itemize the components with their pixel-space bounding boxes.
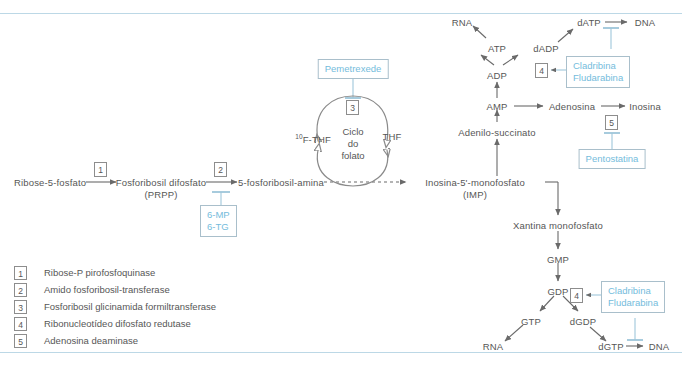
folate-cycle-label-line2: do <box>348 138 359 151</box>
legend-item: 5 Adenosina deaminase <box>14 332 216 349</box>
node-prpp-line1: Fosforibosil difosfato <box>116 177 206 188</box>
drug-label-6-mp: 6-MP <box>207 209 230 221</box>
node-amp: AMP <box>486 101 507 112</box>
legend-item: 4 Ribonucleotídeo difosfato redutase <box>14 315 216 332</box>
enzyme-marker-5[interactable]: 5 <box>605 115 618 130</box>
legend-number-2: 2 <box>14 283 27 297</box>
legend-label-3: Fosforibosil glicinamida formiltransfera… <box>44 301 216 312</box>
drug-label-cladribina-top: Cladribina <box>573 60 623 72</box>
f-thf-label: F-THF <box>303 134 331 145</box>
legend-number-4: 4 <box>14 317 27 331</box>
node-dadp: dADP <box>533 43 558 54</box>
node-adp: ADP <box>487 70 507 81</box>
node-adenilo-succinato: Adenilo-succinato <box>458 127 536 138</box>
legend-label-2: Amido fosforibosil-transferase <box>44 284 170 295</box>
legend-item: 3 Fosforibosil glicinamida formiltransfe… <box>14 298 216 315</box>
enzyme-marker-2[interactable]: 2 <box>214 162 227 177</box>
top-rule <box>0 13 682 14</box>
node-dgdp: dGDP <box>570 316 596 327</box>
drug-box-pemetrexede[interactable]: Pemetrexede <box>318 59 389 79</box>
node-rna-top: RNA <box>452 17 473 28</box>
node-rna-bottom: RNA <box>483 341 504 352</box>
enzyme-marker-4-bottom[interactable]: 4 <box>570 288 583 303</box>
f-thf-superscript: 10 <box>295 133 303 140</box>
node-imp-line1: Inosina-5'-monofosfato <box>425 177 525 188</box>
legend-label-5: Adenosina deaminase <box>44 335 138 346</box>
drug-label-fludarabina-bottom: Fludarabina <box>608 297 658 309</box>
node-thf: THF <box>383 131 402 142</box>
drug-label-6-tg: 6-TG <box>207 221 230 233</box>
enzyme-legend: 1 Ribose-P pirofosfoquinase 2 Amido fosf… <box>14 264 216 349</box>
node-datp: dATP <box>577 17 601 28</box>
node-10-f-thf: 10F-THF <box>295 131 331 145</box>
node-adenosina: Adenosina <box>549 101 595 112</box>
diagram-canvas: Ribose-5-fosfato Fosforibosil difosfato … <box>0 0 682 367</box>
node-gdp: GDP <box>547 286 568 297</box>
folate-cycle-label-line3: folato <box>341 150 364 163</box>
legend-number-1: 1 <box>14 266 27 280</box>
drug-box-cladribina-fludarabina-top[interactable]: Cladribina Fludarabina <box>566 56 630 88</box>
drug-label-cladribina-bottom: Cladribina <box>608 285 658 297</box>
legend-label-1: Ribose-P pirofosfoquinase <box>44 267 155 278</box>
node-xantina-monofosfato: Xantina monofosfato <box>513 220 603 231</box>
legend-number-5: 5 <box>14 334 27 348</box>
node-5-fosforibosil-amina: 5-fosforibosil-amina <box>238 177 324 188</box>
legend-item: 2 Amido fosforibosil-transferase <box>14 281 216 298</box>
enzyme-marker-1[interactable]: 1 <box>94 162 107 177</box>
node-atp: ATP <box>488 43 506 54</box>
legend-number-3: 3 <box>14 300 27 314</box>
drug-label-fludarabina-top: Fludarabina <box>573 72 623 84</box>
drug-box-cladribina-fludarabina-bottom[interactable]: Cladribina Fludarabina <box>601 281 665 313</box>
folate-cycle-label-line1: Ciclo <box>342 126 363 139</box>
node-dna-top: DNA <box>635 17 656 28</box>
node-gmp: GMP <box>547 254 569 265</box>
enzyme-marker-4-top[interactable]: 4 <box>535 63 548 78</box>
node-ribose-5-fosfato: Ribose-5-fosfato <box>14 177 86 188</box>
enzyme-marker-3[interactable]: 3 <box>346 100 359 115</box>
node-prpp-line2: (PRPP) <box>144 189 177 200</box>
drug-box-pentostatina[interactable]: Pentostatina <box>579 149 646 169</box>
node-gtp: GTP <box>521 316 541 327</box>
legend-label-4: Ribonucleotídeo difosfato redutase <box>44 318 191 329</box>
legend-item: 1 Ribose-P pirofosfoquinase <box>14 264 216 281</box>
drug-box-6mp-6tg[interactable]: 6-MP 6-TG <box>200 205 237 237</box>
node-dna-bottom: DNA <box>649 341 670 352</box>
node-inosina: Inosina <box>629 101 661 112</box>
bottom-rule <box>0 352 682 353</box>
node-dgtp: dGTP <box>598 341 623 352</box>
node-imp-line2: (IMP) <box>463 189 487 200</box>
